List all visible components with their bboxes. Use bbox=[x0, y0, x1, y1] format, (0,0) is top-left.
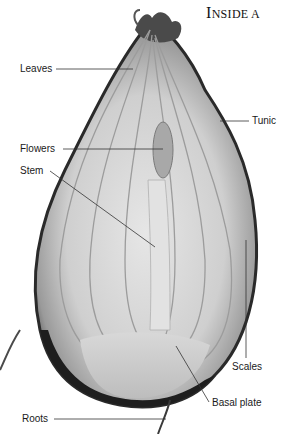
label-scales: Scales bbox=[232, 361, 262, 373]
label-flowers: Flowers bbox=[20, 143, 55, 155]
central-stem bbox=[148, 180, 170, 330]
flower-bud bbox=[153, 122, 173, 178]
label-leaves: Leaves bbox=[20, 63, 52, 75]
label-basal-plate: Basal plate bbox=[212, 397, 261, 409]
label-roots: Roots bbox=[22, 413, 48, 425]
label-stem: Stem bbox=[20, 165, 43, 177]
label-tunic: Tunic bbox=[252, 115, 276, 127]
